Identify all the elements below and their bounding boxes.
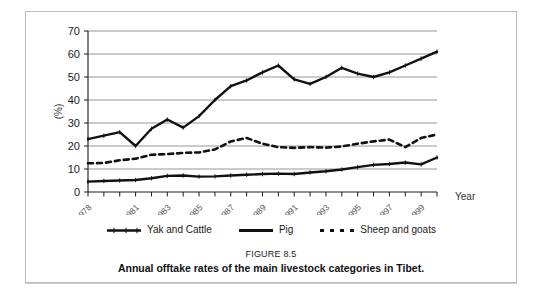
figure-number: FIGURE 8.5 — [26, 249, 516, 259]
y-tick-label-50: 50 — [68, 71, 80, 83]
x-tick-label-1993: 1993 — [311, 202, 332, 215]
x-tick-label-1999: 1999 — [406, 202, 427, 215]
figure-root: 010203040506070(%)1978198119831985198719… — [0, 0, 542, 300]
y-tick-label-30: 30 — [68, 117, 80, 129]
legend-item-pig: Pig — [238, 225, 293, 235]
series-sheep-and-goats — [88, 135, 437, 164]
chart-plot-area: 010203040506070(%)1978198119831985198719… — [0, 0, 542, 215]
caption-divider — [25, 283, 517, 284]
legend-label-pig: Pig — [279, 225, 293, 235]
legend-item-sheep-and-goats: Sheep and goats — [319, 225, 436, 235]
x-tick-label-1997: 1997 — [374, 202, 395, 215]
series-line — [88, 135, 437, 164]
x-tick-label-1991: 1991 — [279, 202, 300, 215]
series-yak-and-cattle — [88, 50, 437, 149]
legend-swatch-yak-and-cattle — [106, 226, 142, 235]
line-chart-svg: 010203040506070(%)1978198119831985198719… — [0, 0, 542, 215]
legend-label-sheep-and-goats: Sheep and goats — [360, 225, 436, 235]
x-axis-title: Year — [455, 191, 476, 202]
series-line — [88, 52, 437, 146]
x-tick-label-1981: 1981 — [121, 202, 142, 215]
chart-legend: Yak and Cattle Pig Sheep and goats — [0, 219, 542, 241]
legend-item-yak-and-cattle: Yak and Cattle — [106, 225, 212, 235]
x-tick-label-1989: 1989 — [247, 202, 268, 215]
series-line — [88, 158, 437, 182]
y-tick-label-10: 10 — [68, 163, 80, 175]
y-axis-title: (%) — [53, 104, 64, 120]
figure-caption: FIGURE 8.5 Annual offtake rates of the m… — [26, 249, 516, 274]
y-tick-label-20: 20 — [68, 140, 80, 152]
y-tick-label-0: 0 — [74, 186, 80, 198]
legend-swatch-sheep-and-goats — [319, 226, 355, 235]
y-tick-label-60: 60 — [68, 48, 80, 60]
x-tick-label-1987: 1987 — [216, 202, 237, 215]
x-tick-label-1995: 1995 — [343, 202, 364, 215]
y-tick-label-40: 40 — [68, 94, 80, 106]
legend-swatch-pig — [238, 226, 274, 235]
x-tick-label-1978: 1978 — [73, 202, 94, 215]
series-pig — [88, 155, 437, 184]
figure-caption-text: Annual offtake rates of the main livesto… — [26, 262, 516, 274]
x-tick-label-1983: 1983 — [152, 202, 173, 215]
y-tick-label-70: 70 — [68, 25, 80, 37]
x-tick-label-1985: 1985 — [184, 202, 205, 215]
legend-label-yak-and-cattle: Yak and Cattle — [147, 225, 212, 235]
